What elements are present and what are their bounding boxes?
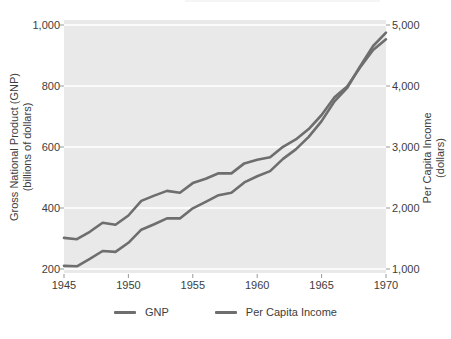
x-axis-tick-label: 1970 <box>366 279 406 291</box>
per-capita-income-line-swatch <box>215 311 237 314</box>
left-axis-tick-label: 200 <box>14 263 60 275</box>
right-axis-tick-label: 2,000 <box>392 202 420 214</box>
x-axis-tick-label: 1950 <box>108 279 148 291</box>
left-axis-tick-label: 600 <box>14 141 60 153</box>
x-axis-tick-label: 1960 <box>237 279 277 291</box>
right-axis-tick-label: 5,000 <box>392 19 420 31</box>
chart-canvas: Gross National Product (GNP) (billions o… <box>0 0 451 339</box>
right-axis-title: Per Capita Income (dollars) <box>421 28 447 288</box>
left-axis-tick-label: 1,000 <box>14 19 60 31</box>
x-axis-tick-label: 1955 <box>173 279 213 291</box>
legend-label-gnp: GNP <box>145 306 169 318</box>
legend-label-per-capita-income: Per Capita Income <box>246 306 337 318</box>
left-axis-tick-label: 400 <box>14 202 60 214</box>
legend-item-gnp: GNP <box>114 306 169 318</box>
right-axis-tick-label: 1,000 <box>392 263 420 275</box>
gnp-line-swatch <box>114 311 136 314</box>
right-axis-tick-label: 4,000 <box>392 80 420 92</box>
left-axis-tick-label: 800 <box>14 80 60 92</box>
right-axis-tick-label: 3,000 <box>392 141 420 153</box>
legend-item-per-capita-income: Per Capita Income <box>215 306 337 318</box>
x-axis-tick-label: 1945 <box>44 279 84 291</box>
x-axis-tick-label: 1965 <box>302 279 342 291</box>
right-axis-title-line2: (dollars) <box>434 28 447 288</box>
legend: GNP Per Capita Income <box>0 306 451 318</box>
right-axis-title-line1: Per Capita Income <box>421 28 434 288</box>
